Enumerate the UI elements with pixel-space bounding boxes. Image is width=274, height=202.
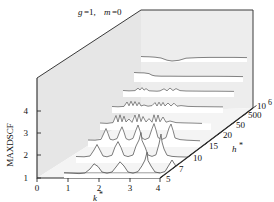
z-tick-label-7: 7 [179,164,184,174]
z-tick-label-1000000-exponent: 6 [268,98,272,107]
x-tick-label-0: 0 [35,183,40,193]
x-tick-label-3: 3 [128,183,133,193]
figure-canvas: 5 7 10 15 20 50 500 10 6 h * 4 3 2 1 MAX… [0,0,274,202]
z-axis-title-star: * [239,141,243,150]
z-tick-label-5: 5 [166,174,171,184]
z-tick-label-500: 500 [248,110,262,120]
y-tick-label-3: 3 [24,128,29,138]
y-tick-label-4: 4 [24,106,29,116]
x-tick-label-1: 1 [66,183,71,193]
y-axis-title: MAXDSCF [5,123,15,167]
x-tick-label-4: 4 [156,183,161,193]
plot-title-eq1: =1, [84,7,96,17]
z-tick-label-1000000: 10 6 [257,98,272,111]
z-tick-label-10: 10 [193,153,203,163]
plot-title-eq0: =0 [112,7,122,17]
x-axis-title-star: * [99,190,103,199]
x-axis-title-base: k [93,193,98,202]
z-tick-label-1000000-base: 10 [257,101,267,111]
z-axis-title: h * [232,141,243,154]
y-tick-label-2: 2 [24,150,29,160]
z-tick-label-20: 20 [223,130,233,140]
plot-title-g: g [78,7,83,17]
z-axis-title-base: h [232,144,237,154]
z-tick-label-15: 15 [209,141,219,151]
plot-title-m: m [104,7,111,17]
y-tick-label-1: 1 [24,173,29,183]
waterfall-plot-svg: 5 7 10 15 20 50 500 10 6 h * 4 3 2 1 MAX… [0,0,274,202]
plot-title: g =1, m =0 [78,7,122,17]
x-tick-marks [37,178,160,182]
z-tick-label-50: 50 [236,120,246,130]
